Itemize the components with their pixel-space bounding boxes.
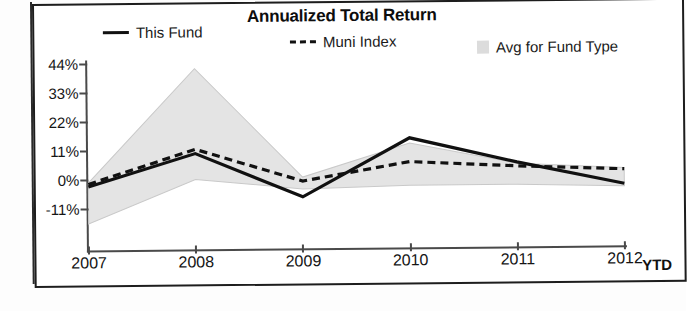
chart-stage: Annualized Total Return This Fund Muni I…: [0, 0, 688, 311]
y-axis-tick-label: 11%: [50, 143, 79, 160]
x-axis-ytd-label: YTD: [642, 256, 672, 273]
x-axis-tick-mark: [195, 245, 197, 253]
filled-square-icon: [477, 41, 489, 54]
x-axis-tick-label: 2011: [501, 250, 536, 268]
y-axis-tick-label: -11%: [46, 201, 80, 218]
legend-item-avg-for-fund-type: Avg for Fund Type: [477, 37, 618, 55]
legend-item-muni-index: Muni Index: [290, 32, 397, 50]
y-axis-tick-mark: [80, 150, 88, 152]
series-layer: [87, 59, 625, 247]
x-axis-tick-label: 2009: [286, 252, 322, 270]
legend-item-this-fund: This Fund: [103, 23, 203, 41]
y-axis-tick-label: 33%: [48, 85, 78, 102]
x-axis-tick-mark: [409, 243, 411, 251]
series-band-avg-for-fund-type: [87, 65, 624, 224]
legend-label-this-fund: This Fund: [136, 23, 203, 41]
x-axis-tick-label: 2012: [607, 249, 643, 267]
x-axis-tick-mark: [302, 244, 304, 252]
y-axis-tick-mark: [81, 208, 89, 210]
x-axis-tick-mark: [517, 242, 519, 250]
legend-label-avg-for-fund-type: Avg for Fund Type: [496, 37, 618, 55]
x-axis-tick-mark: [88, 246, 90, 254]
y-axis-tick-mark: [79, 63, 87, 65]
solid-line-icon: [103, 31, 129, 34]
plot-area: 44%33%22%11%0%-11%: [87, 59, 625, 247]
y-axis-tick-label: 22%: [49, 114, 79, 131]
y-axis-tick-mark: [80, 179, 88, 181]
y-axis-tick-mark: [79, 92, 87, 94]
x-axis-tick-label: 2010: [393, 251, 429, 269]
legend-label-muni-index: Muni Index: [323, 32, 397, 50]
y-axis-tick-mark: [80, 121, 88, 123]
x-axis-tick-label: 2008: [178, 253, 214, 271]
x-axis-tick-mark: [624, 241, 626, 249]
y-axis-tick-label: 0%: [58, 172, 80, 189]
y-axis-tick-label: 44%: [48, 56, 78, 73]
x-axis-tick-label: 2007: [71, 254, 107, 272]
dashed-line-icon: [290, 40, 316, 43]
